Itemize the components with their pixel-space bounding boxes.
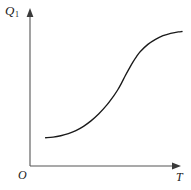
y-axis-label-text: Q	[5, 3, 14, 18]
y-axis-arrowhead	[27, 8, 34, 17]
chart-plot-area	[0, 0, 191, 190]
y-axis-label-subscript: 1	[15, 10, 19, 19]
x-axis-label: T	[176, 171, 183, 183]
y-axis-label: Q1	[5, 4, 19, 19]
sigmoid-curve	[46, 31, 182, 137]
chart-figure: Q1 T O	[0, 0, 191, 190]
origin-label: O	[18, 169, 27, 181]
x-axis-arrowhead	[172, 163, 181, 170]
